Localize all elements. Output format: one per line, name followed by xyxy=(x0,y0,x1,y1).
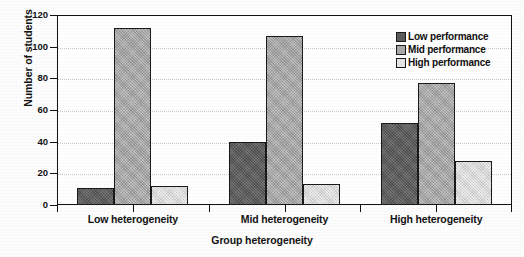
x-tick-mark xyxy=(133,205,134,212)
y-tick-mark xyxy=(50,205,57,206)
x-tick-mark xyxy=(57,205,58,212)
legend-item: Mid performance xyxy=(396,43,490,56)
bar xyxy=(77,188,114,205)
bar xyxy=(381,123,418,205)
bar xyxy=(418,83,455,205)
x-tick-mark xyxy=(436,205,437,212)
bar xyxy=(151,186,188,205)
y-tick-label: 120 xyxy=(32,9,48,20)
bar xyxy=(266,36,303,205)
y-tick-mark xyxy=(50,15,57,16)
x-tick-mark xyxy=(285,205,286,212)
x-tick-mark xyxy=(209,205,210,212)
legend-label: Mid performance xyxy=(408,44,486,55)
chart-legend: Low performanceMid performanceHigh perfo… xyxy=(394,29,492,70)
y-tick-label: 80 xyxy=(37,72,48,83)
y-tick-label: 20 xyxy=(37,167,48,178)
bar xyxy=(229,142,266,205)
x-axis-title: Group heterogeneity xyxy=(0,234,524,246)
bar-group xyxy=(209,15,361,205)
legend-item: Low performance xyxy=(396,30,490,43)
x-axis-label: High heterogeneity xyxy=(360,213,512,225)
y-axis-ticks: 020406080100120 xyxy=(0,15,57,205)
y-tick-label: 40 xyxy=(37,136,48,147)
x-tick-mark xyxy=(360,205,361,212)
y-tick-label: 100 xyxy=(32,41,48,52)
bar xyxy=(303,184,340,205)
x-axis-label: Low heterogeneity xyxy=(57,213,209,225)
y-tick-mark xyxy=(50,78,57,79)
x-axis-label: Mid heterogeneity xyxy=(209,213,361,225)
y-tick-label: 0 xyxy=(43,199,48,210)
y-tick-label: 60 xyxy=(37,104,48,115)
y-tick-mark xyxy=(50,110,57,111)
y-tick-mark xyxy=(50,142,57,143)
legend-label: High performance xyxy=(408,57,490,68)
legend-swatch-icon xyxy=(396,58,406,68)
y-tick-mark xyxy=(50,173,57,174)
x-axis-category-labels: Low heterogeneityMid heterogeneityHigh h… xyxy=(57,213,512,231)
bar-group xyxy=(57,15,209,205)
bar xyxy=(114,28,151,205)
x-tick-mark xyxy=(511,205,512,212)
bar xyxy=(455,161,492,205)
y-tick-mark xyxy=(50,47,57,48)
bar-chart: Number of students 020406080100120 Low h… xyxy=(0,0,524,257)
legend-item: High performance xyxy=(396,56,490,69)
legend-swatch-icon xyxy=(396,45,406,55)
legend-swatch-icon xyxy=(396,32,406,42)
legend-label: Low performance xyxy=(408,31,488,42)
